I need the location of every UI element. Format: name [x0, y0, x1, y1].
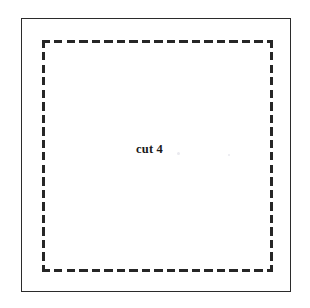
- cut-line-rectangle: [42, 40, 273, 272]
- cut-label: cut 4: [136, 143, 163, 156]
- scan-speck: [177, 152, 180, 155]
- cut-line-edge-right: [270, 40, 273, 272]
- cut-line-edge-left: [42, 40, 45, 272]
- figure-canvas: cut 4: [0, 0, 310, 308]
- cut-line-edge-bottom: [42, 269, 273, 272]
- cut-line-edge-top: [42, 40, 273, 43]
- scan-speck: [228, 154, 230, 156]
